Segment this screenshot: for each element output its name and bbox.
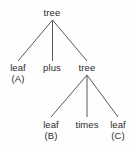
node-leaf-b-label: leaf [35,119,67,130]
edge-subtree-leaf-c [87,75,118,117]
parse-tree-figure: tree leaf (A) plus tree leaf (B) times l… [0,0,135,148]
edge-subtree-leaf-b [51,75,87,117]
node-leaf-a: leaf (A) [2,62,34,84]
node-leaf-c: leaf (C) [102,119,134,141]
node-subtree-tree: tree [71,62,103,73]
node-plus: plus [36,62,68,73]
node-times: times [70,119,104,130]
node-leaf-b: leaf (B) [35,119,67,141]
node-leaf-c-label: leaf [102,119,134,130]
node-subtree-tree-label: tree [71,62,103,73]
node-leaf-a-sub: (A) [2,73,34,84]
edge-root-subtree [53,20,88,61]
node-root-tree-label: tree [36,7,68,18]
node-plus-label: plus [36,62,68,73]
edge-root-leaf-a [18,20,53,61]
node-root-tree: tree [36,7,68,18]
node-leaf-b-sub: (B) [35,130,67,141]
node-leaf-a-label: leaf [2,62,34,73]
node-leaf-c-sub: (C) [102,130,134,141]
node-times-label: times [70,119,104,130]
